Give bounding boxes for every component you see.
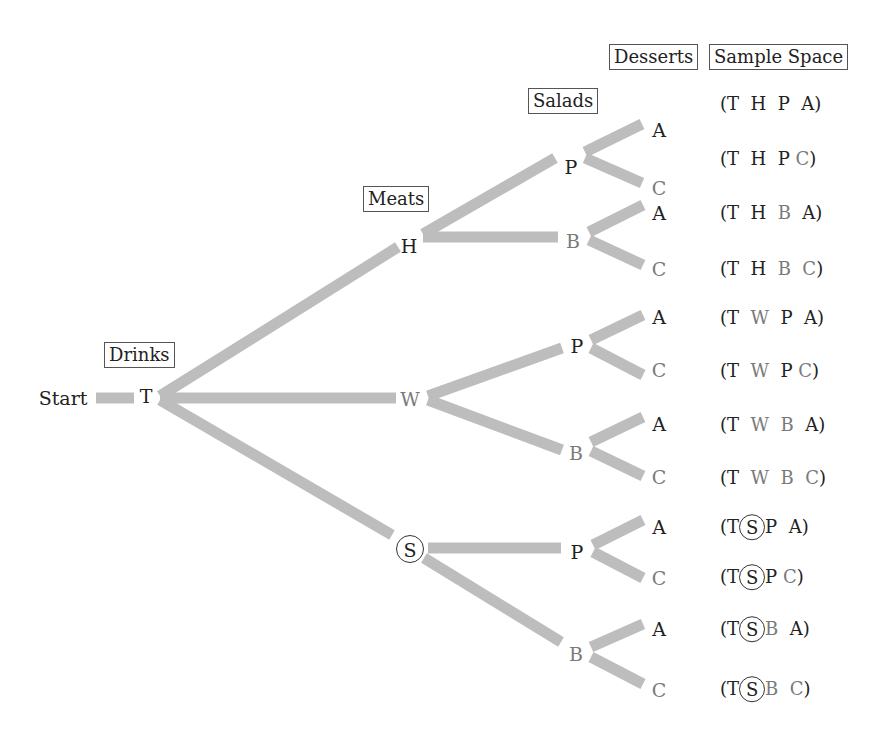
- salads-header: Salads: [528, 88, 598, 114]
- dessert-node-c: C: [652, 679, 667, 701]
- outcome-row: (TSB A): [720, 618, 810, 642]
- outcome-row: (T W B C): [720, 467, 826, 489]
- drinks-header: Drinks: [104, 342, 175, 368]
- outcome-row: (TSB C): [720, 678, 811, 702]
- outcome-row: (T W P A): [720, 307, 824, 329]
- dessert-node-a: A: [652, 618, 666, 640]
- dessert-node-c: C: [652, 466, 667, 488]
- circled-s-icon: S: [396, 535, 424, 563]
- outcome-row: (T W B A): [720, 414, 825, 436]
- start-node: Start: [39, 387, 88, 409]
- dessert-node-c: C: [652, 258, 667, 280]
- salad-node-b: B: [569, 643, 583, 665]
- meat-node-s: S: [396, 535, 424, 563]
- circled-s-icon: S: [739, 514, 765, 540]
- salad-node-p: P: [565, 156, 578, 178]
- sample-space-header: Sample Space: [709, 44, 848, 70]
- outcome-row: (TSP A): [720, 516, 809, 540]
- meats-header: Meats: [363, 186, 429, 212]
- dessert-node-a: A: [652, 119, 666, 141]
- meat-node-w: W: [400, 388, 420, 410]
- circled-s-icon: S: [739, 676, 765, 702]
- salad-node-b: B: [569, 442, 583, 464]
- outcome-row: (T H P A): [720, 93, 821, 115]
- outcome-row: (TSP C): [720, 566, 804, 590]
- circled-s-icon: S: [739, 616, 765, 642]
- dessert-node-c: C: [652, 359, 667, 381]
- outcome-row: (T H P C): [720, 148, 816, 170]
- outcome-row: (T H B A): [720, 202, 822, 224]
- desserts-header: Desserts: [609, 44, 698, 70]
- drink-node-t: T: [140, 385, 153, 407]
- dessert-node-a: A: [652, 516, 666, 538]
- circled-s-icon: S: [739, 564, 765, 590]
- dessert-node-c: C: [652, 567, 667, 589]
- dessert-node-a: A: [652, 202, 666, 224]
- dessert-node-a: A: [652, 413, 666, 435]
- outcome-row: (T W P C): [720, 360, 819, 382]
- dessert-node-a: A: [652, 306, 666, 328]
- salad-node-b: B: [566, 230, 580, 252]
- meat-node-h: H: [401, 235, 418, 257]
- dessert-node-c: C: [652, 177, 667, 199]
- tree-diagram: Drinks Meats Salads Desserts Sample Spac…: [0, 0, 886, 741]
- salad-node-p: P: [571, 541, 584, 563]
- salad-node-p: P: [571, 335, 584, 357]
- outcome-row: (T H B C): [720, 258, 823, 280]
